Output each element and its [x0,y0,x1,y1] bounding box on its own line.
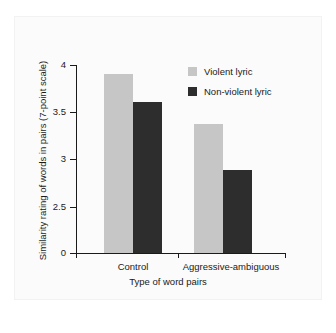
y-axis-title: Similarity rating of words in pairs (7-p… [37,61,48,261]
bar-chart-figure: 43.532.50 ControlAggressive-ambiguous Ty… [0,0,336,333]
bar-control-nonviolent [133,102,162,253]
x-axis-category-label: Aggressive-ambiguous [161,261,301,272]
bar-control-violent [104,74,133,253]
x-axis-line [76,253,285,254]
legend-label-violent-lyric: Violent lyric [204,66,252,77]
y-axis-tick [70,112,76,113]
y-axis-tick [70,159,76,160]
bar-aggressive-ambiguous-violent [194,124,223,253]
y-axis-line [76,65,77,254]
legend-label-non-violent-lyric: Non-violent lyric [204,86,272,97]
y-axis-tick [70,207,76,208]
y-axis-tick [70,65,76,66]
x-axis-tick-middle [178,253,179,258]
legend-swatch-non-violent-lyric [188,87,197,96]
x-axis-tick-start [76,253,77,258]
legend-item-non-violent-lyric: Non-violent lyric [188,83,272,99]
legend-swatch-violent-lyric [188,67,197,76]
legend-item-violent-lyric: Violent lyric [188,63,272,79]
chart-legend: Violent lyric Non-violent lyric [188,63,272,103]
x-axis-title: Type of word pairs [0,276,336,287]
bar-aggressive-ambiguous-nonviolent [223,170,252,253]
x-axis-tick-end [285,253,286,258]
